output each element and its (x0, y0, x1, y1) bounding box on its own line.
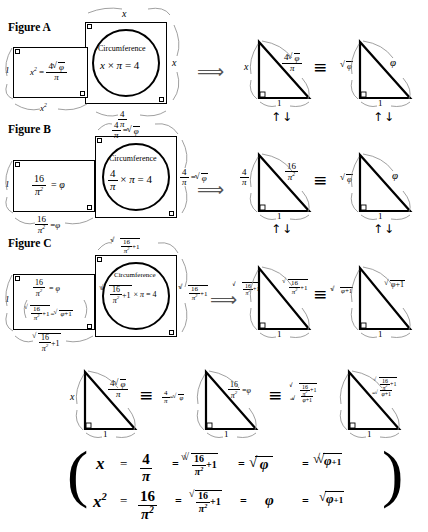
summary-tri1-vertical-label: x (70, 392, 74, 402)
right-angle-mark (97, 257, 102, 262)
figure-b-rect-bottom-label: 16π2 =φ (35, 215, 60, 236)
right-angle-mark (15, 162, 20, 167)
equals-sign: = (120, 494, 127, 507)
final-row1-term4: φ+1 (315, 452, 342, 467)
equivalence-symbol: ≡ (313, 57, 327, 77)
final-row2-term3: φ (265, 493, 274, 508)
right-angle-mark (169, 211, 174, 216)
figure-a-tri2-vertical-label: φ (341, 61, 353, 71)
summary-tri3-base-label: 1 (367, 430, 372, 439)
figure-a-tri1-base-label: 1 (277, 99, 282, 108)
figure-a-tri1-hyp-label: 4φπ (282, 53, 302, 74)
figure-b-rect-formula: 16π2 = φ (32, 174, 65, 197)
final-row2-term4: φ+1 (320, 490, 344, 505)
figure-c-rect-formula: 16π2 = φ (33, 279, 60, 298)
equivalence-symbol: ≡ (313, 284, 327, 304)
figure-a-tri1-vertical-label: x (244, 62, 248, 72)
summary-tri1-base-label: 1 (103, 430, 108, 439)
figure-c-label: Figure C (8, 238, 52, 250)
right-angle-mark (15, 49, 20, 54)
figure-c-tri1-base-label: 1 (277, 330, 282, 339)
left-brace: ( (67, 437, 88, 511)
figure-b-tri2-vertical-label: φ (341, 174, 353, 184)
figure-c-height-label: 1 (5, 295, 10, 304)
figure-c-circle-equation: 16π2+1 × π = 4 (101, 285, 157, 305)
right-angle-mark (15, 276, 20, 281)
final-row1-lhs: x (96, 455, 105, 472)
equals-sign: = (172, 458, 179, 470)
equals-sign: = (302, 495, 309, 507)
figure-c-square-right-label: 16π2+1 (180, 285, 208, 303)
right-angle-mark (97, 138, 102, 143)
figure-c-tri1-vertical-label: 16π2+1 (234, 282, 260, 297)
right-angle-mark (87, 205, 92, 210)
figure-a-square-right-label: x (172, 58, 176, 68)
right-angle-mark (87, 24, 92, 29)
figure-b-tri2-base-label: 1 (378, 212, 383, 221)
summary-tri2-vertical-label: 4π=φ (162, 390, 184, 406)
final-row2-term1: 16π2 (138, 489, 157, 523)
equals-sign: = (120, 457, 127, 470)
equals-sign: = (175, 495, 182, 507)
equals-sign: = (302, 458, 309, 470)
implies-arrow: ⟹ (197, 60, 224, 82)
figure-a-rect-formula: x2 = 4φπ (30, 62, 67, 83)
figure-c-rect-formula-2: 16π2+1=φ+1 (25, 305, 73, 323)
equals-sign: = (238, 458, 245, 470)
right-brace: ) (382, 437, 403, 511)
figure-b-tri1-vertical-label: 4π (240, 168, 249, 188)
figure-c-rect-bottom-label: 16π2+1 (33, 333, 61, 353)
implies-arrow: ⟹ (197, 178, 224, 200)
figure-b-tri2-hyp-label: φ (392, 170, 398, 181)
summary-tri1-hyp-label: 4φπ (108, 379, 128, 400)
figure-a-tri2-hyp-label: φ (390, 57, 396, 68)
figure-a-circle-equation: x × π = 4 (100, 60, 139, 71)
updown-arrow: ↑↓ (373, 110, 395, 124)
figure-b-square-top-label: 4π =φ (112, 121, 140, 141)
summary-tri2-hyp-label: 16π2 =φ (228, 381, 251, 400)
figure-a-height-label: 1 (5, 66, 10, 75)
equivalence-symbol: ≡ (139, 385, 153, 405)
figure-c-tri1-hyp-label: 16π2+1 (283, 279, 308, 297)
figure-c-tri2-vertical-label: φ+1 (332, 287, 353, 295)
figure-a-rect-bottom-label: x2 (40, 103, 47, 113)
diagram-canvas: Figure A 1 x2 = 4φπ x2 x x Circumference… (0, 0, 428, 532)
updown-arrow: ↑↓ (271, 110, 293, 124)
right-angle-mark (87, 324, 92, 329)
final-row2-lhs: x2 (93, 492, 107, 510)
figure-c-tri2-hyp-label: φ+1 (385, 280, 405, 289)
final-row1-term3: φ (250, 455, 273, 472)
right-angle-mark (80, 91, 85, 96)
final-row2-term2: 16π2+1 (190, 490, 222, 514)
right-angle-mark (159, 97, 164, 102)
final-row1-term1: 4π (140, 452, 152, 485)
updown-arrow: ↑↓ (373, 222, 395, 236)
figure-b-tri1-base-label: 1 (277, 212, 282, 221)
figure-b-height-label: 1 (5, 180, 10, 189)
equals-sign: = (240, 495, 247, 507)
equivalence-symbol: ≡ (268, 385, 282, 405)
figure-b-circumference-caption: Circumference (109, 155, 157, 163)
figure-a-tri2-base-label: 1 (378, 99, 383, 108)
final-row1-term2: 16π2+1 (183, 453, 218, 477)
figure-b-label: Figure B (8, 124, 51, 136)
summary-tri3-hyp-label-2: =φ+1 (372, 390, 392, 397)
figure-a-circumference-caption: Circumference (98, 45, 146, 53)
summary-tri2-base-label: 1 (224, 430, 229, 439)
figure-b-circle-equation: 4π × π = 4 (108, 168, 152, 192)
figure-b-tri1-hyp-label: 16π2 (285, 162, 298, 183)
figure-c-tri2-base-label: 1 (378, 330, 383, 339)
figure-a-label: Figure A (8, 22, 51, 34)
updown-arrow: ↑↓ (271, 222, 293, 236)
figure-a-square-top-label: x (122, 9, 126, 19)
summary-tri3-vertical-label-2: =φ+1 (290, 396, 313, 403)
equivalence-symbol: ≡ (313, 170, 327, 190)
right-angle-mark (169, 330, 174, 335)
figure-c-circumference-caption: Circumference (114, 272, 156, 279)
figure-c-square-top-label: 16π2+1 (112, 238, 140, 256)
